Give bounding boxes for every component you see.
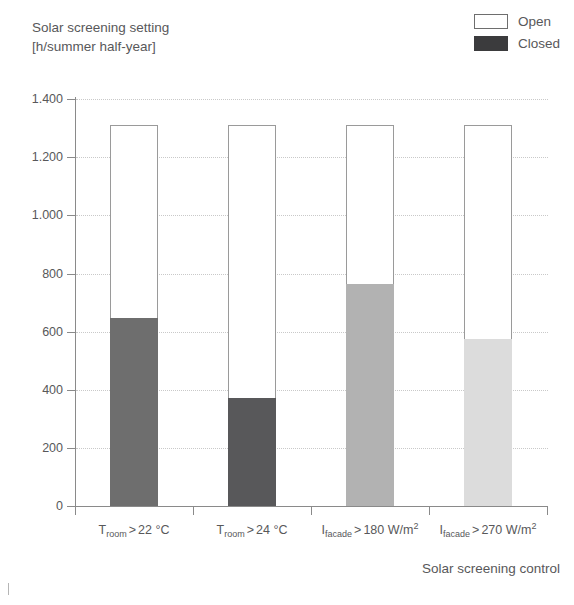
x-tick-mark-4: [547, 506, 548, 515]
x-tick-label-1: Troom>24 °C: [217, 523, 288, 537]
plot-area: 1.400 1.200 1.000 800 600 400 200 0 Troo…: [0, 0, 574, 605]
y-tick-mark-600: [67, 332, 76, 333]
y-tick-label-600: 600: [42, 325, 63, 339]
y-tick-label-200: 200: [42, 441, 63, 455]
x-label-value-1: 24 °C: [256, 523, 287, 537]
x-label-sup-2: 2: [413, 521, 418, 531]
x-label-sub-0: room: [106, 529, 127, 539]
x-tick-mark-3: [429, 506, 430, 515]
x-label-op-0: >: [127, 523, 138, 537]
bar-closed-3: [464, 339, 512, 506]
page-corner-mark: [8, 583, 9, 595]
x-label-sub-3: facade: [443, 529, 470, 539]
x-label-op-1: >: [245, 523, 256, 537]
chart-root: Solar screening setting [h/summer half-y…: [0, 0, 574, 605]
x-label-op-3: >: [470, 523, 481, 537]
x-tick-label-3: Ifacade>270 W/m2: [440, 523, 537, 537]
y-tick-label-1200: 1.200: [32, 150, 63, 164]
y-tick-mark-1000: [67, 215, 76, 216]
x-label-op-2: >: [352, 523, 363, 537]
x-label-value-0: 22 °C: [138, 523, 169, 537]
bar-closed-2: [346, 284, 394, 506]
y-tick-label-1000: 1.000: [32, 208, 63, 222]
y-tick-mark-800: [67, 274, 76, 275]
y-tick-mark-1400: [67, 99, 76, 100]
x-label-sub-2: facade: [325, 529, 352, 539]
x-label-value-3: 270 W/m: [481, 523, 531, 537]
x-label-sub-1: room: [224, 529, 245, 539]
y-tick-mark-1200: [67, 157, 76, 158]
y-tick-label-1400: 1.400: [32, 92, 63, 106]
x-tick-label-0: Troom>22 °C: [99, 523, 170, 537]
x-tick-mark-0: [75, 506, 76, 515]
y-axis-line: [75, 97, 76, 508]
x-tick-mark-2: [311, 506, 312, 515]
bar-closed-0: [110, 318, 158, 506]
x-label-symbol-0: T: [99, 523, 107, 537]
bar-closed-1: [228, 398, 276, 506]
x-tick-label-2: Ifacade>180 W/m2: [322, 523, 419, 537]
y-tick-label-0: 0: [56, 499, 63, 513]
y-tick-mark-200: [67, 448, 76, 449]
y-tick-label-800: 800: [42, 267, 63, 281]
x-label-sup-3: 2: [531, 521, 536, 531]
x-label-value-2: 180 W/m: [363, 523, 413, 537]
x-tick-mark-1: [193, 506, 194, 515]
gridline-1400: [76, 99, 548, 100]
y-tick-label-400: 400: [42, 383, 63, 397]
x-label-symbol-1: T: [217, 523, 225, 537]
y-tick-mark-400: [67, 390, 76, 391]
